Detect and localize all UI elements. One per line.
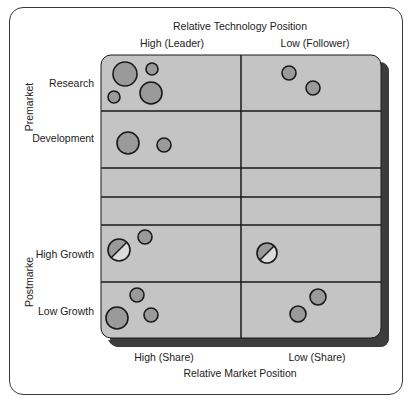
row-label-high-growth: High Growth xyxy=(36,248,94,260)
bubble-research-high xyxy=(146,63,158,75)
bubble-research-low xyxy=(306,81,320,95)
bubble-research-high xyxy=(113,62,137,86)
split-bubble-high-growth-low xyxy=(257,243,277,263)
split-bubble-high-growth-high xyxy=(108,239,130,261)
bubble-development-high xyxy=(117,132,139,154)
group-label-premarket: Premarket xyxy=(23,83,35,131)
bubble-research-low xyxy=(282,66,296,80)
top-column-low-follower: Low (Follower) xyxy=(281,37,350,49)
row-label-low-growth: Low Growth xyxy=(38,305,94,317)
portfolio-matrix xyxy=(0,0,411,403)
bubble-low-growth-high xyxy=(130,288,144,302)
bubble-development-high xyxy=(157,138,171,152)
bottom-column-high-share: High (Share) xyxy=(134,351,194,363)
bottom-column-low-share: Low (Share) xyxy=(288,351,345,363)
bubble-low-growth-low xyxy=(310,289,326,305)
top-axis-title: Relative Technology Position xyxy=(173,20,307,32)
top-column-high-leader: High (Leader) xyxy=(140,37,204,49)
bubble-low-growth-low xyxy=(290,306,306,322)
bubble-low-growth-high xyxy=(106,307,128,329)
bottom-axis-title: Relative Market Position xyxy=(183,367,296,379)
bubble-low-growth-high xyxy=(144,308,158,322)
row-label-development: Development xyxy=(32,132,94,144)
bubble-research-high xyxy=(140,82,162,104)
row-label-research: Research xyxy=(49,77,94,89)
bubble-high-growth-high xyxy=(138,230,152,244)
group-label-postmarket: Postmarke xyxy=(23,257,35,307)
bubble-research-high xyxy=(108,91,120,103)
